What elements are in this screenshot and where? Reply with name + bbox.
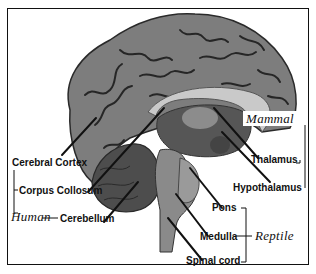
label-hypothalamus: Hypothalamus xyxy=(233,183,302,193)
label-cerebellum: Cerebellum xyxy=(60,214,114,224)
pons-bulge xyxy=(178,158,199,203)
hypothalamus-shape xyxy=(210,136,230,154)
group-label-reptile: Reptile xyxy=(255,229,294,242)
label-cerebral-cortex: Cerebral Cortex xyxy=(12,158,87,168)
label-corpus-collosum: Corpus Collosum xyxy=(19,186,102,196)
label-pons: Pons xyxy=(212,203,236,213)
label-medulla: Medulla xyxy=(200,232,237,242)
label-thalamus: Thalamus xyxy=(251,155,298,165)
thalamus-shape xyxy=(182,107,218,129)
group-label-human: Human xyxy=(11,210,51,223)
label-spinal-cord: Spinal cord xyxy=(186,256,240,266)
group-label-mammal: Mammal xyxy=(243,111,297,126)
